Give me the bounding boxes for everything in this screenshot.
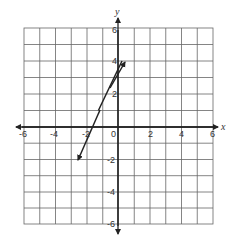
x-tick: 4: [179, 129, 184, 139]
y-tick: 4: [112, 56, 117, 66]
x-tick: -6: [19, 129, 27, 139]
coordinate-plane: x y -6 -4 -2 0 2 4 6 6 4 2 -2 -4 -6: [0, 0, 242, 242]
y-tick: 2: [112, 89, 117, 99]
x-tick: -4: [50, 129, 58, 139]
y-axis-label: y: [114, 6, 120, 17]
y-tick: -2: [107, 155, 115, 165]
x-axis-label: x: [220, 121, 226, 132]
x-tick: -2: [82, 129, 90, 139]
y-tick: -4: [107, 187, 115, 197]
x-tick: 2: [148, 129, 153, 139]
y-tick: 6: [112, 25, 117, 35]
x-tick: 6: [210, 129, 215, 139]
y-tick: -6: [107, 219, 115, 229]
origin-label: 0: [111, 129, 116, 139]
axes: [16, 18, 218, 234]
